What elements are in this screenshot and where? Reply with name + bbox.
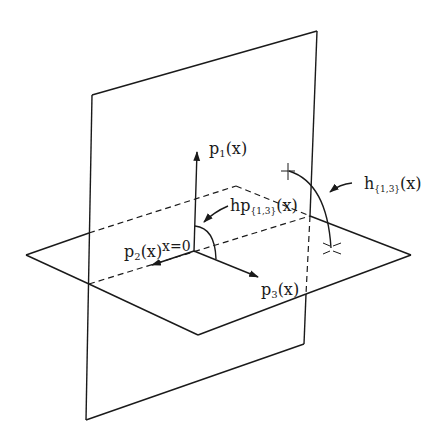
axis-p1 <box>194 152 197 251</box>
h-pointer-arrow <box>330 183 352 192</box>
planes-diagram: p1(x) p2(x) x=0 p3(x) hp{1,3}(x) h{1,3}(… <box>0 0 440 444</box>
projected-arc-hp13 <box>195 226 216 259</box>
label-hp13: hp{1,3}(x) <box>230 196 298 216</box>
diagram-canvas: p1(x) p2(x) x=0 p3(x) hp{1,3}(x) h{1,3}(… <box>0 0 440 444</box>
axis-p3 <box>194 251 258 277</box>
label-p1: p1(x) <box>209 139 247 159</box>
label-origin: x=0 <box>162 238 191 254</box>
vertical-plane <box>86 31 317 420</box>
label-p3: p3(x) <box>261 280 299 300</box>
label-h13: h{1,3}(x) <box>364 174 422 194</box>
horizontal-plane <box>26 216 411 335</box>
hp-pointer-arrow <box>204 206 228 222</box>
label-p2: p2(x) <box>124 242 162 262</box>
